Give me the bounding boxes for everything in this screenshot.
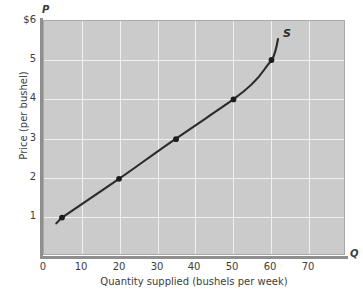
- gridline-vertical-40: [195, 21, 196, 254]
- gridline-vertical-50: [233, 21, 234, 254]
- x-axis-title: Quantity supplied (bushels per week): [43, 276, 345, 287]
- supply-curve-chart: P Q $6 5 4 3 2 1 0 10 20 30 40 50 60 70 …: [0, 0, 363, 295]
- y-axis-line: [40, 18, 43, 259]
- x-tick-label-40: 40: [174, 262, 214, 272]
- gridline-vertical-20: [120, 21, 121, 254]
- y-tick-label-6: $6: [0, 15, 36, 25]
- x-tick-label-10: 10: [61, 262, 101, 272]
- x-axis-line: [40, 256, 348, 259]
- gridline-vertical-10: [82, 21, 83, 254]
- y-axis-title: Price (per bushel): [18, 46, 29, 186]
- gridline-horizontal-1: [44, 217, 344, 218]
- x-tick-label-60: 60: [250, 262, 290, 272]
- gridline-vertical-60: [271, 21, 272, 254]
- x-tick-label-30: 30: [137, 262, 177, 272]
- plot-area: [43, 20, 345, 255]
- series-label-supply: S: [283, 27, 291, 40]
- x-tick-label-20: 20: [99, 262, 139, 272]
- y-axis-variable-label: P: [42, 4, 49, 15]
- gridline-horizontal-4: [44, 99, 344, 100]
- gridline-vertical-30: [158, 21, 159, 254]
- gridline-horizontal-3: [44, 139, 344, 140]
- x-tick-label-0: 0: [23, 262, 63, 272]
- y-tick-label-1: 1: [0, 211, 36, 221]
- gridline-vertical-70: [309, 21, 310, 254]
- x-axis-variable-label: Q: [350, 248, 359, 259]
- x-tick-label-50: 50: [212, 262, 252, 272]
- gridline-horizontal-2: [44, 178, 344, 179]
- x-tick-label-70: 70: [288, 262, 328, 272]
- gridline-horizontal-5: [44, 60, 344, 61]
